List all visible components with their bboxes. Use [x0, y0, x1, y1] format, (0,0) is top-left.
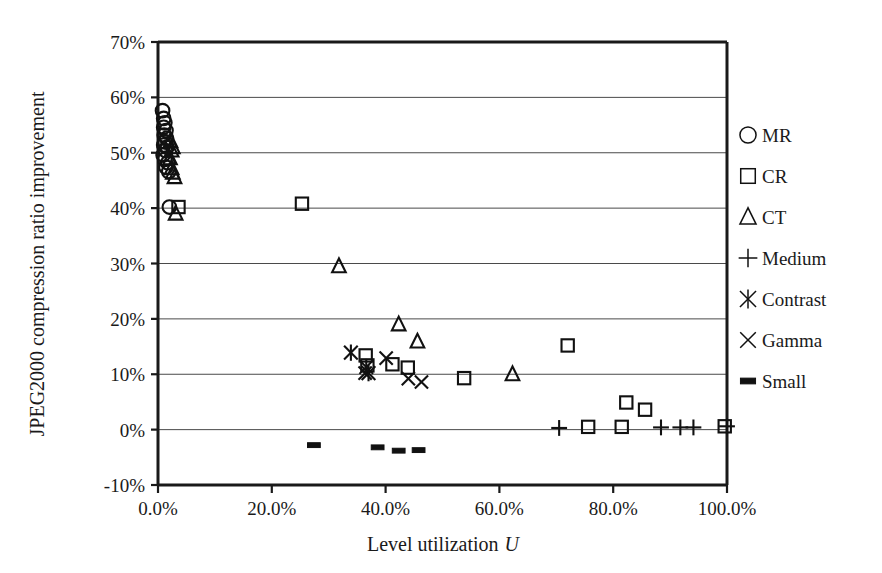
x-axis-title: Level utilizationU	[367, 533, 521, 555]
y-axis-tick-label: 10%	[110, 364, 145, 385]
data-point-small	[371, 445, 384, 450]
legend-marker-dash-icon	[740, 378, 755, 384]
legend-label-contrast: Contrast	[762, 289, 827, 310]
y-axis-tick-label: 60%	[110, 87, 145, 108]
y-axis-tick-label: 20%	[110, 309, 145, 330]
x-axis-tick-label: 0.0%	[138, 498, 178, 519]
data-point-small	[308, 443, 321, 448]
legend-label-medium: Medium	[762, 248, 827, 269]
legend-label-small: Small	[762, 371, 806, 392]
legend-label-cr: CR	[762, 166, 788, 187]
y-axis-tick-label: 40%	[110, 198, 145, 219]
x-axis-tick-label: 100.0%	[698, 498, 757, 519]
legend-label-ct: CT	[762, 207, 787, 228]
x-axis-tick-label: 40.0%	[361, 498, 410, 519]
y-axis-title: JPEG2000 compression ratio improvement	[26, 91, 49, 436]
x-axis-tick-label: 80.0%	[589, 498, 638, 519]
legend-label-mr: MR	[762, 125, 792, 146]
y-axis-tick-label: 30%	[110, 254, 145, 275]
y-axis-tick-label: -10%	[104, 475, 145, 496]
x-axis-tick-label: 60.0%	[475, 498, 524, 519]
chart-figure: -10%0%10%20%30%40%50%60%70% 0.0%20.0%40.…	[0, 0, 882, 573]
x-axis-tick-label: 20.0%	[247, 498, 296, 519]
legend-label-gamma: Gamma	[762, 330, 823, 351]
data-point-small	[412, 448, 425, 453]
scatter-plot-svg: -10%0%10%20%30%40%50%60%70% 0.0%20.0%40.…	[0, 0, 882, 573]
y-axis-tick-label: 0%	[120, 420, 146, 441]
data-point-small	[392, 448, 405, 453]
y-axis-tick-label: 70%	[110, 32, 145, 53]
y-axis-tick-label: 50%	[110, 143, 145, 164]
